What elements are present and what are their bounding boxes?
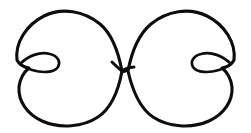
double-loop-curve-drawing: Hand-drawn double loop curve Two large c… bbox=[0, 0, 251, 133]
figure-container: Hand-drawn double loop curve Two large c… bbox=[0, 0, 251, 133]
